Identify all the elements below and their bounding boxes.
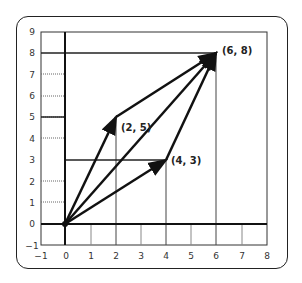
- svg-text:5: 5: [188, 251, 194, 261]
- svg-text:6: 6: [213, 251, 219, 261]
- svg-text:4: 4: [29, 134, 35, 144]
- svg-text:9: 9: [29, 27, 35, 37]
- origin-point: [62, 221, 68, 227]
- svg-text:7: 7: [239, 251, 245, 261]
- svg-text:3: 3: [138, 251, 144, 261]
- label-point-6-8: (6, 8): [222, 45, 252, 56]
- svg-text:−1: −1: [25, 241, 38, 251]
- svg-text:0: 0: [29, 219, 35, 229]
- svg-text:4: 4: [163, 251, 169, 261]
- svg-text:8: 8: [29, 48, 35, 58]
- vector-0-to-6-8: [65, 53, 216, 224]
- svg-text:5: 5: [29, 112, 35, 122]
- svg-text:6: 6: [29, 91, 35, 101]
- vector-diagram: (2, 5) (4, 3) (6, 8) −1 0 1 2 3 4 5 6 7 …: [0, 0, 302, 283]
- svg-text:0: 0: [63, 251, 69, 261]
- x-tick-labels: −1 0 1 2 3 4 5 6 7 8: [34, 251, 270, 261]
- label-point-4-3: (4, 3): [171, 155, 201, 166]
- svg-text:7: 7: [29, 70, 35, 80]
- svg-text:3: 3: [29, 155, 35, 165]
- svg-text:1: 1: [88, 251, 94, 261]
- y-tick-labels: −1 0 1 2 3 4 5 6 7 8 9: [25, 27, 38, 251]
- svg-text:2: 2: [113, 251, 119, 261]
- label-point-2-5: (2, 5): [121, 122, 151, 133]
- vectors: [65, 53, 216, 224]
- svg-text:−1: −1: [34, 251, 47, 261]
- svg-text:2: 2: [29, 177, 35, 187]
- svg-text:8: 8: [264, 251, 270, 261]
- y-tick-guides: [41, 74, 65, 202]
- svg-text:1: 1: [29, 198, 35, 208]
